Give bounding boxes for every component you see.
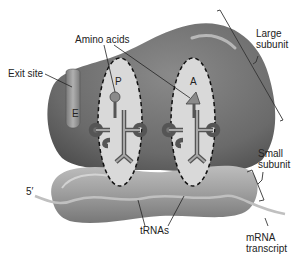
label-exit-site: Exit site: [8, 68, 43, 79]
label-large-subunit: Large subunit: [256, 28, 288, 50]
label-mrna-line1: mRNA: [246, 232, 287, 243]
label-five-prime: 5′: [26, 186, 33, 197]
label-mrna-line2: transcript: [246, 243, 287, 254]
site-label-p: P: [115, 76, 122, 87]
large-subunit: [47, 23, 275, 172]
exit-site: [66, 69, 80, 128]
label-small-subunit: Small subunit: [258, 148, 290, 170]
label-mrna-transcript: mRNA transcript: [246, 232, 287, 254]
site-label-e: E: [72, 108, 79, 119]
label-trnas: tRNAs: [140, 225, 169, 236]
amino-acid-p: [110, 92, 120, 102]
site-label-a: A: [190, 76, 197, 87]
label-small-line2: subunit: [258, 159, 290, 170]
small-subunit: [51, 166, 257, 223]
label-large-line1: Large: [256, 28, 288, 39]
label-small-line1: Small: [258, 148, 290, 159]
label-large-line2: subunit: [256, 39, 288, 50]
label-amino-acids: Amino acids: [75, 34, 129, 45]
